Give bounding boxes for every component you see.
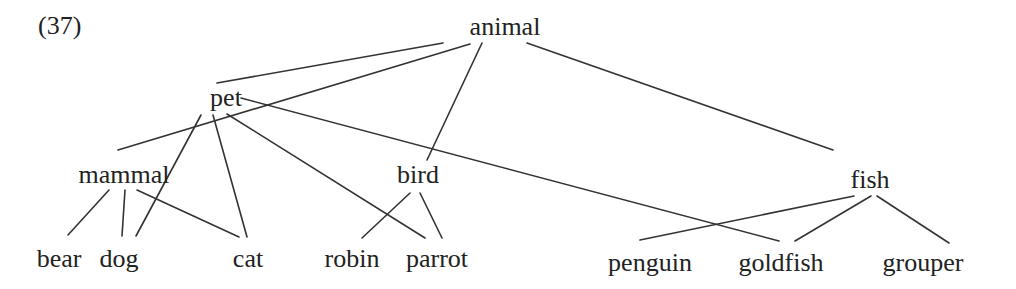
node-fish: fish <box>851 167 890 193</box>
node-goldfish: goldfish <box>738 250 823 276</box>
edge-animal-mammal <box>118 44 470 150</box>
node-robin: robin <box>325 246 380 272</box>
edge-mammal-cat <box>137 190 239 237</box>
edge-animal-bird <box>427 43 482 160</box>
edge-pet-parrot <box>227 114 425 238</box>
edge-fish-goldfish <box>795 196 871 241</box>
edge-bird-parrot <box>420 193 442 238</box>
edge-mammal-dog <box>122 190 125 236</box>
edge-layer <box>0 0 1016 289</box>
edge-pet-goldfish <box>241 98 779 241</box>
edge-animal-fish <box>527 43 833 150</box>
edge-fish-penguin <box>640 196 854 240</box>
hierarchy-diagram: (37) animal pet mammal bird fish bear do… <box>0 0 1016 289</box>
node-cat: cat <box>233 246 263 272</box>
edge-pet-cat <box>213 115 247 237</box>
edge-fish-grouper <box>877 196 949 243</box>
example-number: (37) <box>38 13 81 39</box>
node-animal: animal <box>470 14 541 40</box>
node-bear: bear <box>37 246 82 272</box>
edge-bird-robin <box>362 193 410 238</box>
node-dog: dog <box>100 246 139 272</box>
edge-mammal-bear <box>68 190 109 235</box>
node-pet: pet <box>210 85 242 111</box>
node-bird: bird <box>397 162 439 188</box>
node-grouper: grouper <box>883 250 964 276</box>
node-penguin: penguin <box>608 250 692 276</box>
node-mammal: mammal <box>79 162 170 188</box>
node-parrot: parrot <box>406 246 468 272</box>
